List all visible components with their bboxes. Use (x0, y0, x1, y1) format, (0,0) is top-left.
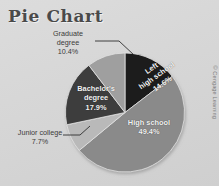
callout-graduate-line1: Graduate (42, 29, 94, 38)
slice-label-bachelors-line2: degree (68, 93, 124, 102)
callout-junior-value: 7.7% (2, 137, 78, 146)
callout-graduate-line2: degree (42, 38, 94, 47)
callout-graduate-degree: Graduate degree 10.4% (42, 29, 94, 56)
callout-graduate-value: 10.4% (42, 47, 94, 56)
pie-chart-figure: Pie Chart Graduate degree 10.4% (0, 0, 219, 186)
callout-junior-college: Junior college 7.7% (2, 128, 78, 146)
copyright-credit: © Cengage Learning (212, 65, 218, 119)
slice-label-high-school-name: High school (113, 118, 185, 127)
slice-label-high-school: High school 49.4% (113, 118, 185, 137)
slice-label-bachelors-degree: Bachelor's degree 17.9% (68, 84, 124, 112)
slice-label-bachelors-value: 17.9% (68, 103, 124, 112)
slice-label-high-school-value: 49.4% (113, 127, 185, 136)
slice-label-bachelors-line1: Bachelor's (68, 84, 124, 93)
callout-junior-line1: Junior college (2, 128, 78, 137)
